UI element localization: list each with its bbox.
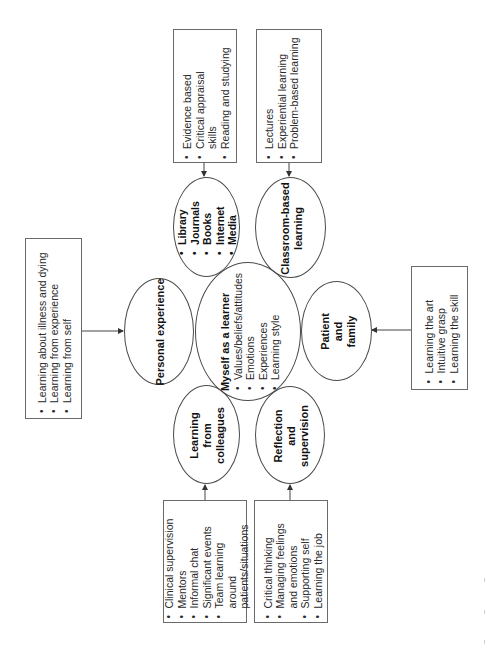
node-personal-experience: Personal experience — [124, 278, 194, 385]
list-item: Internet — [213, 201, 226, 256]
center-title: Myself as a learner — [218, 273, 231, 391]
list-item: Learning the skill — [447, 267, 460, 385]
box-classroom: Lectures Experiential learning Problem-b… — [256, 29, 322, 163]
node-learning-from-colleagues: Learning from colleagues — [173, 385, 240, 484]
node-title-line: Reflection — [272, 409, 285, 462]
learning-sources-diagram: Learning about illness and dying Learnin… — [0, 0, 486, 672]
list-item: Learning the job — [311, 501, 324, 620]
node-title-line: colleagues — [214, 407, 227, 464]
personal-experience-list: Learning about illness and dying Learnin… — [36, 239, 74, 420]
list-item: Learning from self — [61, 239, 74, 414]
node-title-line: Patient — [319, 313, 332, 350]
list-item: Team learning around patients/situations — [213, 509, 251, 620]
center-list: Values/beliefs/attitudes Emotions Experi… — [231, 273, 281, 391]
library-node-list: Library Journals Books Internet Media — [176, 201, 239, 256]
node-title-line: family — [345, 316, 358, 348]
list-item: Significant events — [200, 501, 213, 620]
scan-artifact — [484, 640, 485, 644]
list-item: Supporting self — [299, 501, 312, 620]
list-item: Problem-based learning — [288, 30, 301, 160]
list-item: Mentors — [175, 501, 188, 620]
list-item: Evidence based — [181, 30, 194, 160]
colleagues-list: Clinical supervision Mentors Informal ch… — [163, 501, 251, 624]
list-item: Learning from experience — [48, 239, 61, 414]
reflection-list: Critical thinking Managing feelings and … — [261, 501, 324, 624]
list-item: Lectures — [263, 30, 276, 160]
list-item: Informal chat — [188, 501, 201, 620]
node-title-line: from — [201, 423, 214, 447]
box-colleagues: Clinical supervision Mentors Informal ch… — [163, 500, 247, 623]
classroom-list: Lectures Experiential learning Problem-b… — [263, 30, 301, 164]
list-item: Intuitive grasp — [435, 267, 448, 385]
node-title-line: and — [285, 426, 298, 446]
list-item: Clinical supervision — [163, 501, 176, 620]
node-title: Personal experience — [153, 278, 166, 385]
scan-artifact — [484, 610, 485, 614]
list-item: Library — [176, 201, 189, 256]
node-title-line: Learning — [188, 412, 201, 458]
list-item: Critical appraisal skills — [194, 59, 219, 160]
library-list: Evidence based Critical appraisal skills… — [181, 30, 231, 164]
list-item: Learning the art — [422, 267, 435, 385]
list-item: Learning about illness and dying — [36, 239, 49, 414]
list-item: Values/beliefs/attitudes — [231, 273, 244, 391]
list-item: Managing feelings and emotions — [274, 519, 299, 620]
patient-family-list: Learning the art Intuitive grasp Learnin… — [422, 267, 460, 391]
list-item: Experiences — [256, 273, 269, 391]
box-patient-family: Learning the art Intuitive grasp Learnin… — [411, 266, 468, 390]
node-title-line: Classroom-based — [279, 182, 292, 274]
node-title-line: and — [332, 322, 345, 342]
list-item: Media — [226, 201, 239, 256]
list-item: Books — [201, 201, 214, 256]
node-reflection-supervision: Reflection and supervision — [255, 386, 325, 484]
list-item: Reading and studying — [219, 30, 232, 160]
list-item: Experiential learning — [276, 30, 289, 160]
box-personal-experience: Learning about illness and dying Learnin… — [25, 238, 82, 419]
box-reflection: Critical thinking Managing feelings and … — [254, 500, 328, 623]
box-library: Evidence based Critical appraisal skills… — [173, 29, 237, 163]
list-item: Journals — [188, 201, 201, 256]
node-title-line: learning — [292, 207, 305, 250]
list-item: Critical thinking — [261, 501, 274, 620]
scan-artifact — [484, 578, 485, 582]
node-center-myself: Myself as a learner Values/beliefs/attit… — [195, 262, 301, 401]
list-item: Emotions — [244, 273, 257, 391]
list-item: Learning style — [269, 273, 282, 391]
node-patient-family: Patient and family — [301, 281, 372, 381]
node-title-line: supervision — [298, 405, 311, 467]
